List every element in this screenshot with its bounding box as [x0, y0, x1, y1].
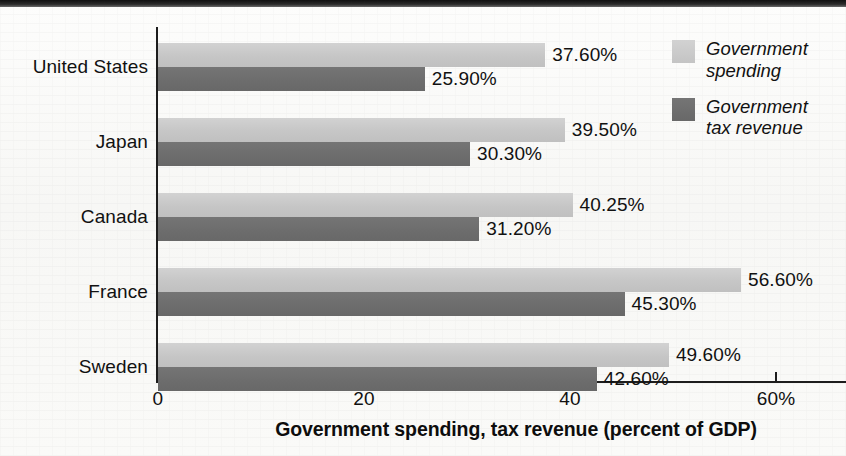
x-axis-tick-60 [775, 372, 777, 383]
category-label-canada: Canada [81, 206, 148, 228]
bar-value-canada-spending: 40.25% [580, 194, 645, 216]
x-axis-tick-label-60: 60% [757, 388, 796, 410]
grouped-bar-chart: 0204060% United StatesJapanCanadaFranceS… [0, 0, 846, 456]
legend-label-revenue-line2: tax revenue [706, 117, 803, 138]
bar-sweden-spending [158, 343, 669, 367]
bar-value-france-revenue: 45.30% [632, 293, 697, 315]
bar-value-japan-revenue: 30.30% [477, 143, 542, 165]
bar-value-united-states-revenue: 25.90% [432, 68, 497, 90]
bar-value-sweden-spending: 49.60% [676, 344, 741, 366]
legend-label-revenue-line1: Government [706, 96, 808, 117]
category-label-united-states: United States [33, 56, 148, 78]
legend-label-spending: Government spending [706, 38, 808, 82]
bar-sweden-revenue [158, 367, 597, 391]
bar-united-states-spending [158, 43, 545, 67]
legend-label-spending-line2: spending [706, 60, 781, 81]
bar-japan-spending [158, 118, 565, 142]
bar-japan-revenue [158, 142, 470, 166]
legend-item-spending: Government spending [672, 38, 846, 82]
legend-swatch-revenue-icon [672, 98, 695, 121]
bar-france-spending [158, 268, 741, 292]
bar-united-states-revenue [158, 67, 425, 91]
chart-legend: Government spending Government tax reven… [672, 38, 846, 153]
bar-value-canada-revenue: 31.20% [486, 218, 551, 240]
legend-label-spending-line1: Government [706, 38, 808, 59]
category-label-japan: Japan [96, 131, 148, 153]
x-axis-tick-label-0: 0 [153, 388, 164, 410]
bar-canada-spending [158, 193, 573, 217]
x-axis-tick-label-40: 40 [559, 388, 581, 410]
x-axis-title: Government spending, tax revenue (percen… [0, 418, 846, 441]
bar-value-japan-spending: 39.50% [572, 119, 637, 141]
x-axis-tick-label-20: 20 [353, 388, 375, 410]
legend-swatch-spending-icon [672, 40, 695, 63]
bar-value-sweden-revenue: 42.60% [604, 368, 669, 390]
bar-canada-revenue [158, 217, 479, 241]
category-label-sweden: Sweden [79, 356, 148, 378]
bar-france-revenue [158, 292, 625, 316]
legend-label-revenue: Government tax revenue [706, 96, 808, 140]
bar-value-france-spending: 56.60% [748, 269, 813, 291]
category-label-france: France [88, 281, 148, 303]
x-axis-title-text: Government spending, tax revenue (percen… [89, 418, 757, 440]
bar-value-united-states-spending: 37.60% [552, 44, 617, 66]
legend-item-revenue: Government tax revenue [672, 96, 846, 140]
